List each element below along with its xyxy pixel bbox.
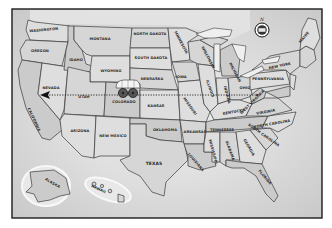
route-end-dot bbox=[256, 94, 258, 96]
state-label: SOUTH DAKOTA bbox=[135, 56, 168, 60]
state-label: PENNSYLVANIA bbox=[252, 77, 284, 81]
state-label: KANSAS bbox=[147, 104, 164, 108]
us-map-illustration: WASHINGTONOREGONCALIFORNIANEVADAIDAHOMON… bbox=[0, 0, 332, 228]
state-label: ARIZONA bbox=[70, 129, 89, 133]
state-label: OHIO bbox=[240, 86, 251, 90]
state-label: NEBRASKA bbox=[141, 77, 164, 81]
state-label: TENNESSEE bbox=[210, 128, 235, 132]
state-label: COLORADO bbox=[112, 100, 135, 104]
state-label: NEVADA bbox=[42, 86, 59, 90]
state-label: MONTANA bbox=[89, 37, 110, 41]
state-label: OKLAHOMA bbox=[153, 128, 177, 132]
lake-michigan bbox=[214, 44, 220, 72]
state-north-dakota bbox=[130, 28, 170, 48]
map-canvas: WASHINGTONOREGONCALIFORNIANEVADAIDAHOMON… bbox=[0, 0, 332, 228]
state-label: WYOMING bbox=[100, 69, 121, 73]
state-label: OREGON bbox=[31, 49, 49, 53]
state-label: IOWA bbox=[175, 75, 186, 79]
island-maui bbox=[108, 189, 112, 193]
alaska-inset bbox=[22, 166, 70, 206]
state-label: IDAHO bbox=[69, 58, 83, 62]
state-label: ARKANSAS bbox=[184, 130, 207, 134]
state-label: NORTH DAKOTA bbox=[134, 32, 167, 36]
state-label: NEW MEXICO bbox=[99, 134, 127, 138]
state-label: UTAH bbox=[78, 95, 89, 99]
state-label: TEXAS bbox=[146, 161, 162, 166]
